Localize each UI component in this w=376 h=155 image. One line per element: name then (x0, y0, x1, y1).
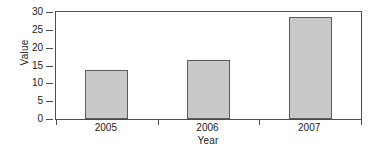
x-axis-title: Year (55, 135, 361, 146)
y-axis-tick: 25 (46, 30, 53, 31)
y-axis-tick: 0 (46, 119, 53, 120)
y-axis-tick: 15 (46, 66, 53, 67)
y-axis-tick: 30 (46, 12, 53, 13)
y-axis-tick-label: 15 (32, 60, 43, 72)
x-axis-tick-label: 2007 (258, 122, 360, 134)
y-axis-tick-label: 10 (32, 77, 43, 89)
y-axis-tick-label: 5 (37, 95, 43, 107)
x-axis-tick (361, 119, 362, 125)
x-axis-tick-label: 2006 (157, 122, 259, 134)
y-axis-tick-label: 30 (32, 6, 43, 18)
x-axis-tick-label: 2005 (55, 122, 157, 134)
bar (85, 70, 128, 119)
y-axis-tick-label: 0 (37, 113, 43, 125)
bar (187, 60, 230, 119)
bar (289, 17, 332, 119)
y-axis-title: Value (19, 31, 30, 75)
plot-area: 051015202530 (55, 11, 362, 120)
y-axis-tick-label: 20 (32, 42, 43, 54)
bar-chart: Value 051015202530 200520062007 Year (0, 0, 376, 155)
y-axis-tick: 20 (46, 48, 53, 49)
y-axis-tick: 10 (46, 83, 53, 84)
y-axis-tick: 5 (46, 101, 53, 102)
y-axis-tick-label: 25 (32, 24, 43, 36)
